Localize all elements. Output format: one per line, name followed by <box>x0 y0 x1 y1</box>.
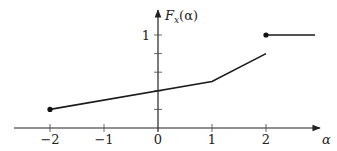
cdf-chart: −2 −1 0 1 2 1 α Fx(α) <box>0 0 337 151</box>
x-axis-label: α <box>322 132 331 147</box>
y-axis-label-arg: (α) <box>179 8 198 23</box>
x-tick-label-1: 1 <box>208 132 216 147</box>
x-tick-label-0: 0 <box>154 132 162 147</box>
jump-dot <box>263 32 268 37</box>
x-tick-label-m1: −1 <box>94 132 113 147</box>
x-tick-label-2: 2 <box>262 132 270 147</box>
y-axis-label: Fx(α) <box>164 8 198 25</box>
y-tick-label-1: 1 <box>142 28 150 43</box>
x-tick-label-m2: −2 <box>40 132 59 147</box>
start-dot <box>47 107 52 112</box>
